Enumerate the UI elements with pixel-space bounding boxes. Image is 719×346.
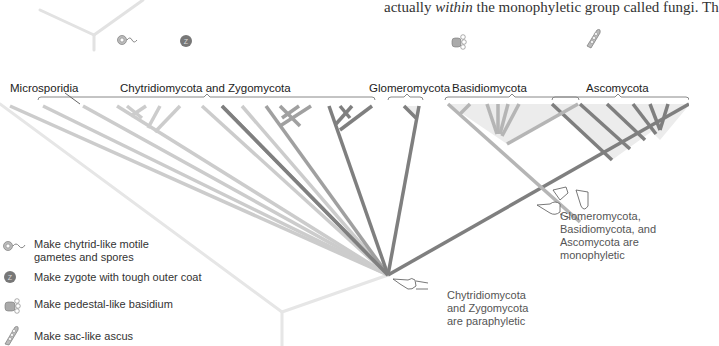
svg-text:Z: Z [8, 274, 13, 281]
clade-label-glomeromycota: Glomeromycota [369, 82, 450, 94]
basidium-icon [452, 35, 466, 50]
monophyletic-note-line: monophyletic [560, 249, 656, 262]
zygote-icon: Z [0, 271, 30, 291]
legend-text-line: Make pedestal-like basidium [34, 298, 173, 311]
zygote-icon: Z [180, 35, 192, 47]
paraphyletic-note-line: Chytridiomycota [447, 289, 528, 302]
clade-label-microsporidia: Microsporidia [10, 82, 78, 94]
paraphyletic-note: Chytridiomycota and Zygomycota are parap… [447, 289, 528, 328]
faded-previous-tree [40, 0, 143, 50]
hand-pointer-paraphyletic-icon [393, 279, 428, 290]
legend-text-line: Make chytrid-like motile [34, 238, 149, 251]
svg-text:Z: Z [184, 38, 189, 45]
clade-brackets [38, 93, 689, 104]
paraphyletic-note-line: are paraphyletic [447, 315, 528, 328]
paraphyletic-note-line: and Zygomycota [447, 302, 528, 315]
legend-item-zygote: Z Make zygote with tough outer coat [0, 271, 202, 291]
legend-item-ascus: Make sac-like ascus [0, 324, 133, 344]
legend-text-line: Make zygote with tough outer coat [34, 271, 202, 284]
clade-label-basidiomycota: Basidiomycota [452, 82, 527, 94]
monophyletic-note-line: Ascomycota are [560, 236, 656, 249]
motile-spore-icon [118, 36, 138, 45]
monophyletic-note: Glomeromycota, Basidiomycota, and Ascomy… [560, 210, 656, 262]
monophyletic-note-line: Basidiomycota, and [560, 223, 656, 236]
monophyletic-note-line: Glomeromycota, [560, 210, 656, 223]
ascus-icon [587, 29, 600, 48]
ascomycota-fill-main [550, 104, 689, 160]
legend-item-motile-spores: Make chytrid-like motile gametes and spo… [0, 238, 149, 263]
basidium-icon [0, 298, 30, 318]
motile-spore-icon [0, 238, 30, 258]
clade-label-ascomycota: Ascomycota [586, 82, 649, 94]
ascus-icon [0, 324, 30, 344]
legend-text-line: gametes and spores [34, 251, 149, 264]
clade-label-chytridiomycota-zygomycota: Chytridiomycota and Zygomycota [120, 82, 291, 94]
legend-item-basidium: Make pedestal-like basidium [0, 298, 173, 318]
legend-text-line: Make sac-like ascus [34, 330, 133, 343]
